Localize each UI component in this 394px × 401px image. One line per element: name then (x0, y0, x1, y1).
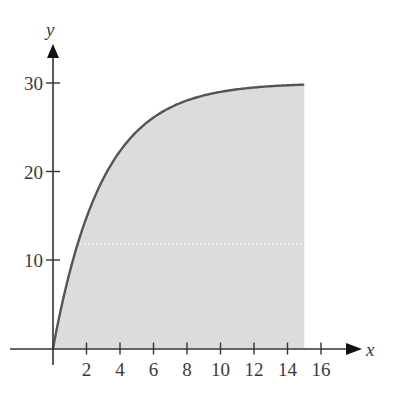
y-tick-label: 10 (24, 250, 43, 271)
x-tick-label: 16 (312, 359, 331, 380)
x-tick-label: 12 (245, 359, 264, 380)
y-tick-label: 20 (24, 162, 43, 183)
x-tick-label: 6 (149, 359, 159, 380)
area-fill (53, 85, 304, 349)
chart-canvas: 246810121416 x 102030 y (0, 0, 394, 401)
y-axis-arrow-icon (47, 44, 59, 58)
x-axis-label: x (365, 339, 375, 360)
y-axis: 102030 y (24, 19, 60, 365)
x-tick-label: 4 (115, 359, 125, 380)
x-tick-label: 8 (182, 359, 192, 380)
x-tick-label: 10 (211, 359, 230, 380)
x-tick-label: 2 (82, 359, 92, 380)
x-tick-label: 14 (278, 359, 298, 380)
y-axis-label: y (44, 19, 55, 40)
shaded-area (53, 85, 304, 349)
y-tick-label: 30 (24, 73, 43, 94)
x-axis-arrow-icon (346, 343, 362, 355)
y-ticks: 102030 (24, 73, 60, 271)
